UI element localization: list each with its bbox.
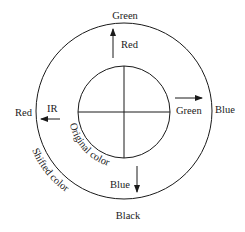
inner-label-top: Red [121, 39, 139, 50]
inner-label-right: Green [176, 105, 202, 116]
outer-label-left: Red [15, 107, 33, 118]
inner-label-left: IR [47, 103, 58, 114]
outer-label-top: Green [112, 10, 138, 21]
shifted-color-label: Shifted color [30, 146, 71, 194]
inner-label-bottom: Blue [110, 179, 130, 190]
color-shift-diagram: Green Blue Black Red Red Green Blue IR O… [0, 0, 245, 232]
outer-label-bottom: Black [116, 210, 141, 221]
outer-label-right: Blue [215, 104, 235, 115]
original-color-label: Original color [68, 122, 112, 168]
